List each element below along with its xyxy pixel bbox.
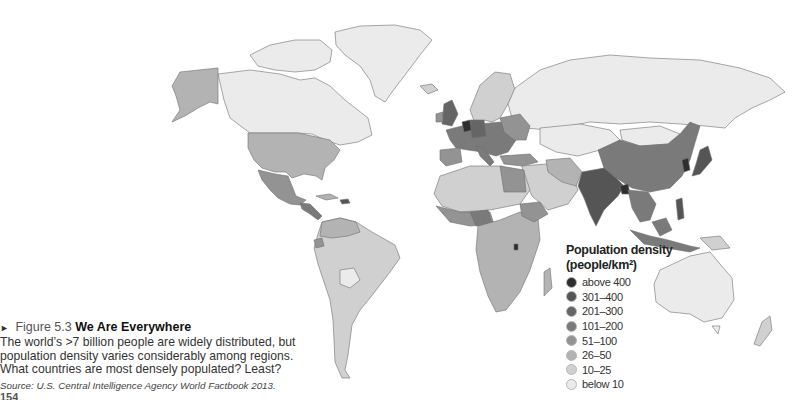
region-greenland: [335, 25, 432, 102]
legend-label: 101–200: [582, 320, 623, 332]
legend-item: 301–400: [566, 290, 672, 305]
region-south-america: [314, 218, 400, 378]
legend-item: 10–25: [566, 363, 672, 378]
legend-units: (people/km²): [566, 258, 672, 273]
region-iberia: [440, 148, 462, 166]
legend-item: 101–200: [566, 319, 672, 334]
region-russia: [508, 55, 785, 130]
figure-arrow-icon: ►: [0, 323, 9, 333]
region-turkey: [500, 154, 538, 166]
region-new-zealand: [754, 316, 772, 346]
legend-item: 201–300: [566, 304, 672, 319]
region-southeast-asia: [628, 190, 656, 222]
map-legend: Population density (people/km²) above 40…: [566, 243, 672, 392]
legend-label: above 400: [582, 276, 631, 288]
legend-swatch-icon: [566, 321, 577, 332]
region-papua-new-guinea: [700, 236, 730, 250]
legend-label: 26–50: [582, 349, 611, 361]
region-central-africa: [476, 212, 540, 312]
legend-item: 51–100: [566, 333, 672, 348]
legend-swatch-icon: [566, 277, 577, 288]
legend-label: 201–300: [582, 305, 623, 317]
legend-swatch-icon: [566, 335, 577, 346]
region-tasmania: [712, 326, 720, 334]
figure-heading: ► Figure 5.3 We Are Everywhere: [0, 320, 320, 336]
figure-caption-text: The world’s >7 billion people are widely…: [0, 336, 320, 377]
region-hispaniola: [340, 199, 350, 204]
legend-item: below 10: [566, 377, 672, 392]
legend-label: 51–100: [582, 335, 617, 347]
legend-swatch-icon: [566, 364, 577, 375]
region-borneo: [652, 218, 672, 236]
figure-title: We Are Everywhere: [75, 320, 191, 334]
figure-number: Figure 5.3: [15, 320, 71, 334]
legend-swatch-icon: [566, 306, 577, 317]
region-uk: [442, 100, 458, 126]
legend-swatch-icon: [566, 291, 577, 302]
region-madagascar: [544, 268, 552, 296]
region-philippines: [676, 198, 684, 220]
legend-label: 301–400: [582, 291, 623, 303]
region-egypt: [500, 166, 526, 192]
legend-swatch-icon: [566, 350, 577, 361]
region-ireland: [436, 112, 443, 122]
legend-swatch-icon: [566, 379, 577, 390]
figure-source: Source: U.S. Central Intelligence Agency…: [0, 380, 320, 391]
region-central-america: [300, 203, 322, 220]
region-cuba: [316, 194, 338, 200]
legend-item: above 400: [566, 275, 672, 290]
legend-label: below 10: [582, 378, 624, 390]
figure-caption: ► Figure 5.3 We Are Everywhere The world…: [0, 320, 320, 391]
legend-item: 26–50: [566, 348, 672, 363]
region-germany: [470, 120, 486, 138]
region-canada-islands: [250, 40, 332, 72]
region-alaska: [172, 68, 218, 122]
legend-label: 10–25: [582, 364, 611, 376]
region-rwanda-burundi: [514, 244, 518, 250]
region-japan: [692, 146, 712, 176]
region-iceland: [420, 84, 438, 94]
page-number: 154: [0, 391, 18, 400]
region-ecuador: [314, 238, 324, 248]
legend-title: Population density: [566, 243, 672, 258]
